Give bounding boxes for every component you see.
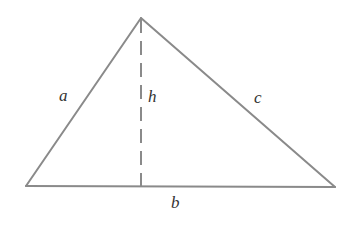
triangle-side-c-line	[141, 18, 335, 187]
triangle-base-b-line	[26, 186, 335, 187]
label-altitude-h: h	[148, 88, 157, 105]
triangle-side-a-line	[26, 18, 141, 186]
label-side-c: c	[254, 89, 262, 106]
label-side-a: a	[59, 87, 68, 104]
label-base-b: b	[171, 194, 180, 211]
triangle-diagram: a h c b	[0, 0, 345, 231]
